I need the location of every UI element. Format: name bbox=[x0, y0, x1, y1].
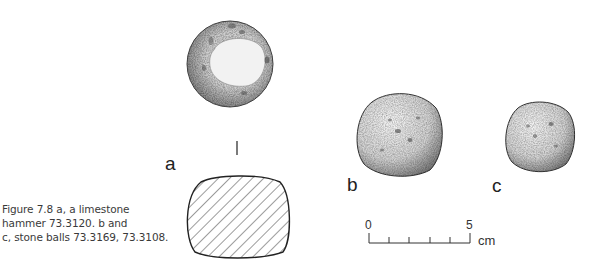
label-b: b bbox=[347, 175, 358, 194]
scale-start-label: 0 bbox=[365, 219, 372, 231]
figure-caption: Figure 7.8 a, a limestone hammer 73.3120… bbox=[2, 202, 177, 244]
hammer-plan-view bbox=[187, 21, 273, 107]
label-c: c bbox=[492, 176, 502, 195]
scale-end-label: 5 bbox=[466, 219, 473, 231]
stone-ball-b bbox=[357, 94, 442, 177]
stone-ball-c bbox=[506, 102, 575, 172]
caption-line: hammer 73.3120. b and bbox=[2, 216, 177, 230]
scale-bar bbox=[369, 233, 470, 243]
caption-line: Figure 7.8 a, a limestone bbox=[2, 202, 177, 216]
label-a: a bbox=[165, 154, 176, 173]
figure-7-8: a b c 0 5 cm Figure 7.8 a, a limestone h… bbox=[0, 0, 596, 263]
scale-unit-label: cm bbox=[478, 234, 495, 247]
hammer-cross-section bbox=[187, 176, 289, 258]
caption-line: c, stone balls 73.3169, 73.3108. bbox=[2, 230, 177, 244]
